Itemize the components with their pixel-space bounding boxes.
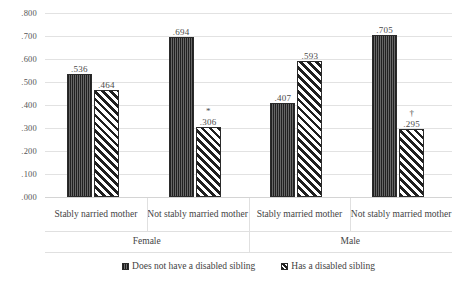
gridline xyxy=(45,13,452,14)
y-axis-tick-label: .700 xyxy=(21,31,37,41)
significance-marker: * xyxy=(206,107,211,116)
legend-item: Has a disabled sibling xyxy=(281,261,375,271)
y-axis-tick-label: .600 xyxy=(21,54,37,64)
category-axis-cell: Not stably married mother xyxy=(147,198,249,231)
legend-item-label: Has a disabled sibling xyxy=(291,261,375,271)
bar: .464 xyxy=(94,90,119,197)
bar-value-label: .464 xyxy=(98,80,115,90)
category-axis-cell: Stably narried mother xyxy=(45,198,147,231)
category-label: Not stably married mother xyxy=(147,209,248,220)
legend-item: Does not have a disabled sibling xyxy=(122,261,255,271)
group-label: Female xyxy=(133,236,161,246)
group-axis: FemaleMale xyxy=(45,230,452,253)
category-label: Stably married mother xyxy=(257,209,342,220)
bar: .407 xyxy=(270,103,295,197)
y-axis: .800.700.600.500.400.300.200.100.000 xyxy=(0,13,42,197)
bar-value-label: .306 xyxy=(200,117,217,127)
axis-divider xyxy=(249,198,250,231)
bar: .705 xyxy=(372,35,397,197)
legend-item-label: Does not have a disabled sibling xyxy=(132,261,255,271)
group-axis-cell: Male xyxy=(249,230,453,252)
bar-value-label: .593 xyxy=(302,51,319,61)
bar-value-label: .694 xyxy=(173,27,190,37)
bar: .536 xyxy=(67,74,92,197)
y-axis-tick-label: .100 xyxy=(21,169,37,179)
plot-area: .536.464.694.306*.407.593.705.295† xyxy=(45,13,452,197)
category-label: Not stably married mother xyxy=(351,209,452,220)
bar-value-label: .407 xyxy=(275,93,292,103)
y-axis-tick-label: .300 xyxy=(21,123,37,133)
axis-divider xyxy=(147,198,148,231)
category-axis: Stably narried motherNot stably married … xyxy=(45,197,452,232)
bar: .295† xyxy=(399,129,424,197)
grouped-bar-chart: .800.700.600.500.400.300.200.100.000 .53… xyxy=(0,0,465,281)
group-label: Male xyxy=(340,236,360,246)
y-axis-tick-label: .800 xyxy=(21,8,37,18)
significance-marker: † xyxy=(409,109,414,118)
y-axis-tick-label: .500 xyxy=(21,77,37,87)
axis-divider xyxy=(350,198,351,231)
category-axis-cell: Stably married mother xyxy=(249,198,351,231)
bar-value-label: .705 xyxy=(376,25,393,35)
category-label: Stably narried mother xyxy=(54,209,137,220)
y-axis-tick-label: .000 xyxy=(21,192,37,202)
bar-value-label: .295 xyxy=(403,119,420,129)
category-axis-cell: Not stably married mother xyxy=(350,198,452,231)
y-axis-tick-label: .400 xyxy=(21,100,37,110)
chart-legend: Does not have a disabled siblingHas a di… xyxy=(45,256,452,276)
group-axis-cell: Female xyxy=(45,230,249,252)
y-axis-tick-label: .200 xyxy=(21,146,37,156)
bar: .593 xyxy=(297,61,322,197)
diagonal-hatch-swatch xyxy=(281,263,288,270)
solid-dark-swatch xyxy=(122,263,129,270)
bar: .694 xyxy=(169,37,194,197)
bar-value-label: .536 xyxy=(71,64,88,74)
bar: .306* xyxy=(196,127,221,197)
